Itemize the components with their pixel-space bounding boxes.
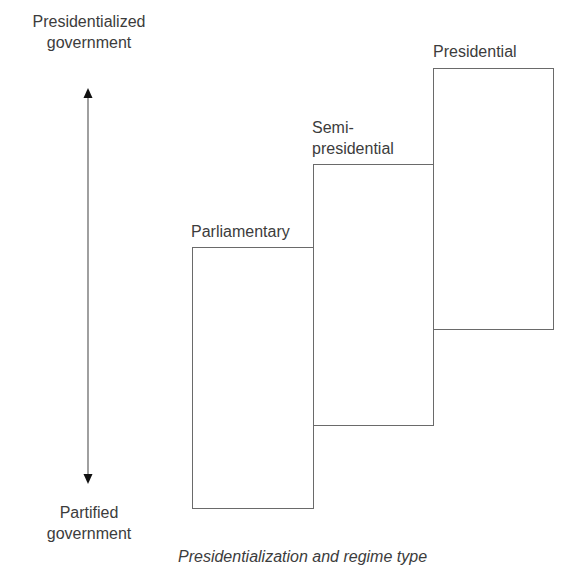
semi-presidential-label-line2: presidential (312, 138, 394, 159)
parliamentary-box (192, 247, 314, 509)
diagram-caption: Presidentialization and regime type (178, 548, 427, 566)
semi-presidential-label: Semi- presidential (312, 117, 394, 159)
axis-bottom-label: Partified government (0, 502, 178, 544)
parliamentary-label: Parliamentary (191, 221, 290, 242)
presidential-box (433, 68, 554, 330)
semi-presidential-box (313, 164, 434, 426)
axis-bottom-label-line2: government (0, 523, 178, 544)
presidential-label: Presidential (433, 41, 517, 62)
axis-bottom-label-line1: Partified (0, 502, 178, 523)
semi-presidential-label-line1: Semi- (312, 117, 394, 138)
